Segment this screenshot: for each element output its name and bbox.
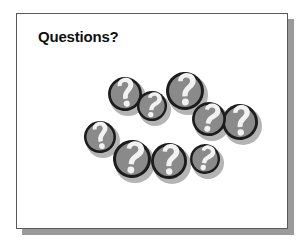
question-mark-cluster-image (39, 44, 267, 194)
question-mark-cluster-svg (39, 44, 267, 194)
slide-frame: Questions? (16, 13, 288, 229)
coins (81, 71, 260, 180)
page-title: Questions? (38, 28, 119, 45)
slide-canvas: Questions? (0, 0, 308, 248)
